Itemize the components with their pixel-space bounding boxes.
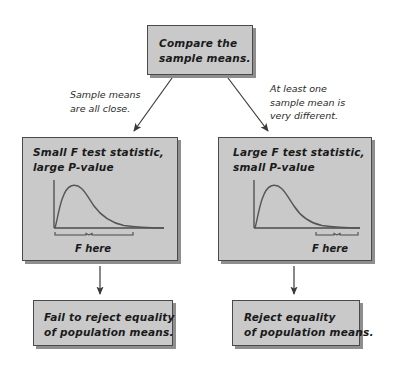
brace-f-here-right [316,232,358,235]
node-reject-label: Reject equality of population means. [244,310,374,340]
node-compare-sample-means-label: Compare the sample means. [159,36,251,66]
flowchart-canvas: Compare the sample means. Sample means a… [0,0,395,366]
edge-label-sample-mean-different: At least one sample mean is very differe… [270,82,345,123]
f-distribution-plot-right [238,178,364,240]
f-here-label-right: F here [312,243,348,254]
node-small-f-large-p-label: Small F test statistic, large P-value [33,145,164,175]
node-large-f-small-p-label: Large F test statistic, small P-value [233,145,365,175]
node-fail-to-reject-label: Fail to reject equality of population me… [44,310,175,340]
node-fail-to-reject[interactable]: Fail to reject equality of population me… [33,300,173,346]
brace-f-here-left [55,232,133,235]
node-reject[interactable]: Reject equality of population means. [232,300,360,346]
edge-label-sample-means-close: Sample means are all close. [70,88,141,115]
f-density-curve-left [55,185,164,228]
arrow-top-to-right [228,78,268,131]
f-distribution-plot-left [38,178,170,240]
f-density-curve-right [255,185,360,228]
node-compare-sample-means[interactable]: Compare the sample means. [147,25,253,75]
f-here-label-left: F here [75,243,111,254]
